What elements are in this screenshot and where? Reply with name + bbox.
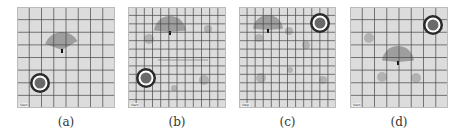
obstacle-blob — [171, 85, 177, 91]
panel-c: Step — [239, 7, 336, 108]
agent-marker — [169, 31, 171, 35]
corner-label: Start — [130, 103, 139, 107]
panel-caption-b: (b) — [157, 115, 197, 129]
panel-caption-c: (c) — [268, 115, 308, 129]
panel-a: Start — [17, 7, 115, 108]
obstacle-blob — [285, 27, 293, 35]
corner-label: Start — [352, 103, 361, 107]
target-icon — [136, 68, 156, 88]
environment-canvas — [350, 7, 448, 108]
environment-canvas — [239, 7, 336, 108]
obstacle-blob — [364, 33, 374, 43]
panel-caption-a: (a) — [46, 115, 86, 129]
obstacle-blob — [302, 41, 310, 49]
panel-caption-d: (d) — [379, 115, 419, 129]
obstacle-blob — [411, 73, 421, 83]
obstacle-blob — [199, 75, 209, 85]
agent-sensor-fan — [253, 15, 283, 30]
target-icon — [423, 15, 443, 35]
panel-b: Start — [128, 7, 226, 108]
panel-d: Start — [350, 7, 448, 108]
corner-label: Step — [241, 103, 250, 107]
agent-marker — [61, 49, 63, 53]
target-icon — [310, 13, 330, 33]
environment-canvas — [17, 7, 115, 108]
corner-label: Start — [19, 103, 28, 107]
agent-sensor-fan — [45, 32, 78, 50]
target-icon — [30, 73, 50, 93]
obstacle-blob — [377, 72, 387, 82]
environment-canvas — [128, 7, 226, 108]
